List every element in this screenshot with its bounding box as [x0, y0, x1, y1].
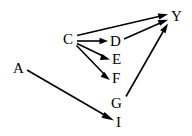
- node-label-A: A: [13, 61, 24, 76]
- node-label-C: C: [63, 32, 73, 47]
- node-label-D: D: [110, 34, 121, 49]
- node-label-E: E: [112, 52, 121, 67]
- node-label-F: F: [112, 71, 120, 86]
- node-label-G: G: [111, 96, 122, 111]
- edge-C-to-Y: [77, 14, 168, 36]
- graph-edges-canvas: [0, 0, 192, 136]
- edge-G-to-Y: [126, 24, 168, 97]
- edge-C-to-D: [77, 38, 108, 44]
- node-label-I: I: [116, 115, 121, 130]
- node-label-Y: Y: [171, 9, 182, 24]
- edge-A-to-I: [27, 70, 114, 121]
- graph-diagram: A C D E F G I Y: [0, 0, 192, 136]
